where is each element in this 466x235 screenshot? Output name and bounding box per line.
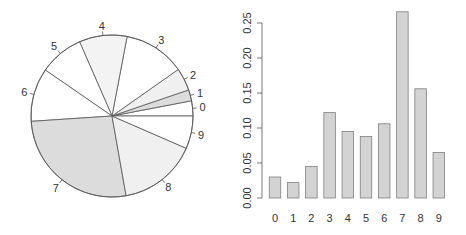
x-tick-label: 0	[272, 212, 278, 224]
y-tick-label: 0.10	[241, 117, 253, 138]
bar-9	[433, 153, 445, 199]
bar-6	[378, 124, 390, 198]
y-tick-label: 0.00	[241, 187, 253, 208]
x-tick-label: 8	[418, 212, 424, 224]
bar-0	[269, 177, 281, 198]
bar-5	[360, 136, 372, 198]
y-tick-label: 0.20	[241, 47, 253, 68]
bar-4	[342, 132, 354, 199]
y-axis: 0.000.050.100.150.200.25	[241, 12, 262, 208]
bars: 0123456789	[269, 12, 444, 224]
bar-8	[415, 89, 427, 198]
y-tick-label: 0.25	[241, 12, 253, 33]
x-tick-label: 9	[436, 212, 442, 224]
x-tick-label: 3	[327, 212, 333, 224]
y-tick-label: 0.15	[241, 82, 253, 103]
y-tick-label: 0.05	[241, 152, 253, 173]
x-tick-label: 1	[290, 212, 296, 224]
x-tick-label: 7	[399, 212, 405, 224]
x-tick-label: 2	[308, 212, 314, 224]
bar-2	[306, 167, 318, 199]
bar-chart: 0.000.050.100.150.200.250123456789	[0, 0, 466, 235]
x-tick-label: 5	[363, 212, 369, 224]
chart-figure: 0123456789 0.000.050.100.150.200.2501234…	[0, 0, 466, 235]
bar-7	[397, 12, 409, 198]
x-tick-label: 4	[345, 212, 351, 224]
x-tick-label: 6	[381, 212, 387, 224]
bar-3	[324, 113, 336, 198]
bar-1	[287, 183, 299, 198]
